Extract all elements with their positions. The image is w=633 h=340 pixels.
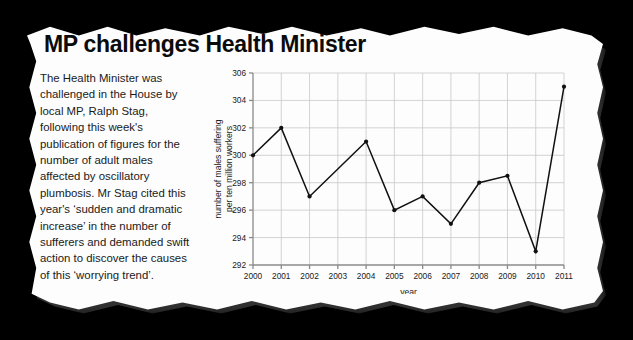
page-title: MP challenges Health Minister — [44, 31, 366, 58]
svg-text:2000: 2000 — [244, 271, 263, 281]
svg-text:per ten million workers: per ten million workers — [224, 126, 234, 212]
svg-text:298: 298 — [232, 178, 246, 188]
svg-text:2006: 2006 — [413, 271, 432, 281]
article-body-text: The Health Minister was challenged in th… — [40, 70, 192, 283]
svg-text:302: 302 — [232, 123, 246, 133]
chart-gridlines — [253, 73, 564, 265]
svg-text:2008: 2008 — [470, 271, 489, 281]
y-axis-tick-labels: 292294296298300302304306 — [232, 68, 246, 270]
svg-text:2009: 2009 — [498, 271, 517, 281]
line-chart: 292294296298300302304306 200020012002200… — [205, 62, 585, 294]
chart-svg: 292294296298300302304306 200020012002200… — [205, 62, 585, 294]
svg-text:2011: 2011 — [555, 271, 573, 281]
svg-text:2003: 2003 — [329, 271, 348, 281]
svg-text:number of males suffering: number of males suffering — [213, 119, 223, 218]
svg-text:2005: 2005 — [385, 271, 404, 281]
svg-text:304: 304 — [232, 95, 246, 105]
chart-axes — [249, 73, 564, 269]
svg-text:2002: 2002 — [300, 271, 319, 281]
svg-text:296: 296 — [232, 205, 246, 215]
svg-text:2001: 2001 — [272, 271, 291, 281]
svg-text:300: 300 — [232, 150, 246, 160]
svg-text:2010: 2010 — [526, 271, 545, 281]
x-axis-label: year — [400, 287, 417, 294]
svg-text:306: 306 — [232, 68, 246, 78]
svg-text:294: 294 — [232, 233, 246, 243]
data-series-line — [253, 87, 564, 252]
svg-text:292: 292 — [232, 260, 246, 270]
y-axis-label: number of males sufferingper ten million… — [213, 119, 234, 218]
x-axis-tick-labels: 2000200120022003200420052006200720082009… — [244, 271, 574, 281]
svg-text:2007: 2007 — [442, 271, 461, 281]
svg-text:2004: 2004 — [357, 271, 376, 281]
